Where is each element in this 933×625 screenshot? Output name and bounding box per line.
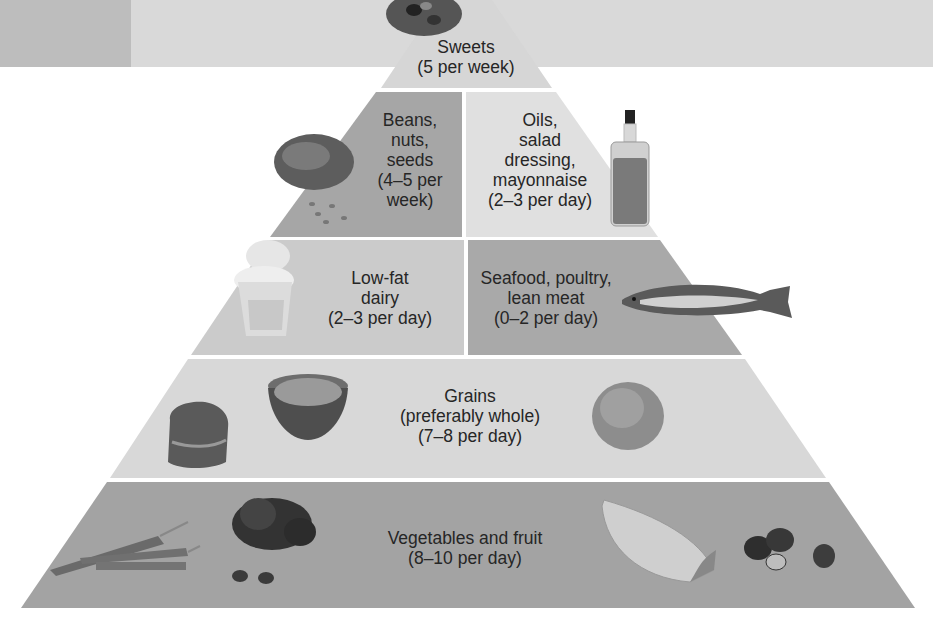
label-vegetables: Vegetables and fruit (8–10 per day) (355, 528, 575, 568)
label-line: week) (360, 190, 460, 210)
label-line: Seafood, poultry, (472, 268, 620, 288)
label-line: Low-fat (305, 268, 455, 288)
label-line: (4–5 per (360, 170, 460, 190)
label-line: (2–3 per day) (305, 308, 455, 328)
rice-pile-icon (592, 382, 664, 450)
label-line: dressing, (475, 150, 605, 170)
label-line: salad (475, 130, 605, 150)
label-line: (2–3 per day) (475, 190, 605, 210)
label-line: mayonnaise (475, 170, 605, 190)
label-dairy: Low-fat dairy (2–3 per day) (305, 268, 455, 328)
label-line: (8–10 per day) (355, 548, 575, 568)
label-line: (7–8 per day) (370, 426, 570, 446)
label-line: (preferably whole) (370, 406, 570, 426)
label-line: seeds (360, 150, 460, 170)
label-line: Vegetables and fruit (355, 528, 575, 548)
label-line: (0–2 per day) (472, 308, 620, 328)
label-line: Beans, (360, 110, 460, 130)
label-sweets: Sweets (5 per week) (401, 37, 531, 77)
oil-bottle-icon (611, 110, 649, 226)
label-line: dairy (305, 288, 455, 308)
label-line: Oils, (475, 110, 605, 130)
label-line: (5 per week) (401, 57, 531, 77)
label-line: Grains (370, 386, 570, 406)
label-line: Sweets (401, 37, 531, 57)
label-line: lean meat (472, 288, 620, 308)
label-line: nuts, (360, 130, 460, 150)
label-seafood: Seafood, poultry, lean meat (0–2 per day… (472, 268, 620, 328)
label-grains: Grains (preferably whole) (7–8 per day) (370, 386, 570, 446)
label-beans: Beans, nuts, seeds (4–5 per week) (360, 110, 460, 210)
bread-icon (168, 402, 228, 468)
label-oils: Oils, salad dressing, mayonnaise (2–3 pe… (475, 110, 605, 210)
